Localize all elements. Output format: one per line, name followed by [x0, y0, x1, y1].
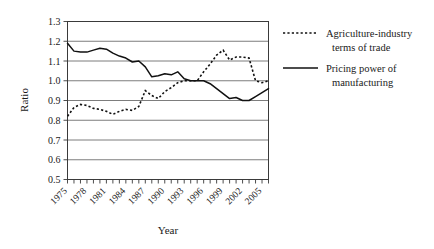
y-tick-label: 1.2 — [48, 36, 61, 47]
line-chart: 1.31.21.11.00.90.80.70.60.5 197519781981… — [0, 0, 434, 249]
y-axis-tick-labels: 1.31.21.11.00.90.80.70.60.5 — [48, 16, 61, 185]
y-axis-title: Ratio — [18, 88, 30, 112]
legend-label-agriculture-line1: Agriculture-industry — [326, 28, 413, 39]
y-tick-label: 1.0 — [48, 75, 61, 86]
y-tick-label: 1.3 — [48, 16, 61, 27]
y-tick-label: 0.8 — [48, 115, 61, 126]
legend-label-pricing-power-line1: Pricing power of — [326, 63, 397, 74]
legend-label-agriculture-line2: terms of trade — [332, 42, 391, 53]
y-tick-label: 0.7 — [48, 135, 61, 146]
chart-figure: 1.31.21.11.00.90.80.70.60.5 197519781981… — [0, 0, 434, 249]
x-axis-title: Year — [158, 224, 179, 236]
y-tick-label: 1.1 — [48, 56, 61, 67]
y-tick-label: 0.6 — [48, 154, 61, 165]
y-tick-label: 0.9 — [48, 95, 61, 106]
y-tick-label: 0.5 — [48, 174, 61, 185]
legend-label-pricing-power-line2: manufacturing — [332, 77, 394, 88]
